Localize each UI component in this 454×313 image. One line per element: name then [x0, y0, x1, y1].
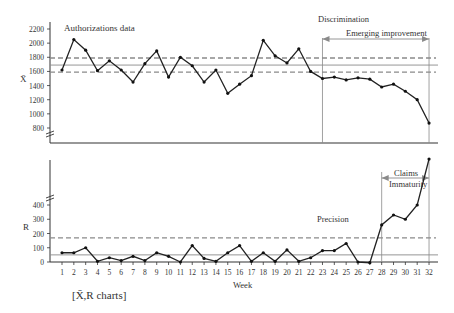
x-tick-label: 26: [354, 268, 362, 277]
y-tick-label: 1200: [29, 96, 44, 105]
top-series: [60, 38, 430, 125]
chart-canvas: 8001000120014001600180020002200 X̄ Autho…: [0, 0, 454, 313]
arrow-head-icon: [382, 175, 389, 181]
bottom-y-axis-label: R: [23, 222, 29, 232]
bottom-series: [60, 157, 430, 264]
data-point: [250, 260, 253, 263]
emerging-improvement-label: Emerging improvement: [346, 28, 427, 38]
data-point: [96, 69, 99, 72]
data-point: [368, 78, 371, 81]
data-point: [120, 259, 123, 262]
x-tick-label: 27: [366, 268, 374, 277]
data-point: [356, 260, 359, 263]
data-point: [321, 77, 324, 80]
y-tick-label: 100: [33, 244, 45, 253]
x-tick-label: 6: [119, 268, 123, 277]
data-point: [427, 121, 430, 124]
data-point: [333, 75, 336, 78]
data-point: [309, 256, 312, 259]
data-point: [143, 62, 146, 65]
x-tick-label: 7: [131, 268, 135, 277]
x-tick-label: 18: [260, 268, 268, 277]
x-tick-label: 22: [307, 268, 315, 277]
data-point: [108, 59, 111, 62]
data-point: [416, 98, 419, 101]
data-point: [262, 39, 265, 42]
x-tick-label: 15: [224, 268, 232, 277]
xbar-r-control-chart: 8001000120014001600180020002200 X̄ Autho…: [0, 0, 454, 313]
y-tick-label: 400: [33, 201, 45, 210]
data-point: [60, 251, 63, 254]
data-point: [392, 83, 395, 86]
data-point: [380, 223, 383, 226]
x-tick-label: 20: [283, 268, 291, 277]
x-tick-label: 12: [188, 268, 196, 277]
data-point: [416, 203, 419, 206]
data-point: [392, 213, 395, 216]
y-tick-label: 1600: [29, 67, 44, 76]
claims-label-line1: Claims: [394, 168, 418, 178]
data-point: [238, 83, 241, 86]
data-point: [155, 251, 158, 254]
data-point: [202, 80, 205, 83]
series-line: [62, 159, 429, 263]
x-tick-label: 24: [331, 268, 339, 277]
data-point: [72, 38, 75, 41]
data-point: [179, 56, 182, 59]
x-tick-label: 28: [378, 268, 386, 277]
y-tick-label: 2200: [29, 25, 44, 34]
data-point: [309, 70, 312, 73]
x-tick-label: 19: [271, 268, 279, 277]
data-point: [274, 260, 277, 263]
x-tick-label: 9: [155, 268, 159, 277]
emerging-improvement-region: [322, 36, 429, 143]
data-point: [238, 244, 241, 247]
y-tick-label: 200: [33, 230, 45, 239]
data-point: [333, 249, 336, 252]
x-ticks: 1234567891011121314151617181920212223242…: [60, 262, 433, 277]
y-tick-label: 1800: [29, 53, 44, 62]
data-point: [250, 74, 253, 77]
data-point: [226, 92, 229, 95]
y-tick-label: 800: [33, 124, 45, 133]
x-tick-label: 3: [84, 268, 88, 277]
data-point: [285, 61, 288, 64]
data-point: [368, 261, 371, 264]
data-point: [380, 85, 383, 88]
data-point: [214, 260, 217, 263]
data-point: [297, 47, 300, 50]
data-point: [356, 76, 359, 79]
data-point: [167, 255, 170, 258]
top-y-axis-label: X̄: [20, 74, 27, 84]
top-chart-title: Authorizations data: [64, 23, 135, 33]
x-tick-label: 16: [236, 268, 244, 277]
x-tick-label: 32: [425, 268, 433, 277]
data-point: [345, 242, 348, 245]
data-point: [120, 68, 123, 71]
data-point: [84, 49, 87, 52]
y-tick-label: 1000: [29, 110, 44, 119]
arrow-head-icon: [322, 36, 329, 42]
data-point: [404, 218, 407, 221]
data-point: [321, 249, 324, 252]
data-point: [345, 78, 348, 81]
data-point: [202, 257, 205, 260]
data-point: [72, 251, 75, 254]
y-tick-label: 2000: [29, 39, 44, 48]
bottom-y-ticks: 0100200300400: [33, 201, 50, 267]
bottom-chart: 0100200300400 12345678910111213141516171…: [23, 157, 438, 301]
data-point: [274, 54, 277, 57]
y-tick-label: 0: [40, 258, 44, 267]
y-tick-label: 1400: [29, 82, 44, 91]
x-tick-label: 31: [413, 268, 421, 277]
x-tick-label: 1: [60, 268, 64, 277]
data-point: [131, 255, 134, 258]
data-point: [84, 246, 87, 249]
x-tick-label: 5: [107, 268, 111, 277]
top-chart: 8001000120014001600180020002200 X̄ Autho…: [20, 14, 438, 143]
data-point: [143, 259, 146, 262]
data-point: [214, 68, 217, 71]
data-point: [427, 157, 430, 160]
data-point: [191, 64, 194, 67]
x-axis-label: Week: [233, 280, 253, 290]
